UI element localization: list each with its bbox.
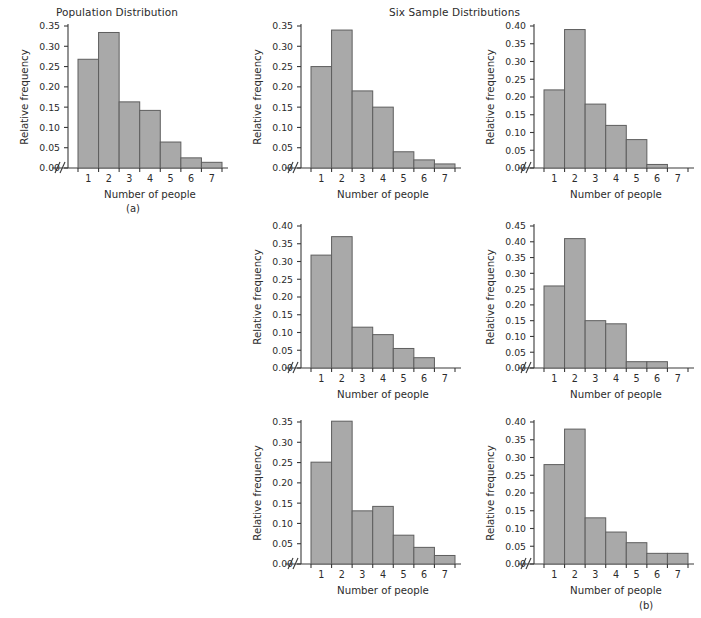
svg-text:0.15: 0.15 bbox=[272, 102, 293, 113]
svg-text:0.05: 0.05 bbox=[272, 142, 293, 153]
bar-3 bbox=[585, 518, 606, 564]
bar-1 bbox=[544, 286, 565, 368]
svg-text:0.35: 0.35 bbox=[505, 252, 526, 263]
svg-text:4: 4 bbox=[380, 173, 386, 184]
svg-text:3: 3 bbox=[359, 569, 365, 580]
chart-sample-1: 0.000.050.100.150.200.250.300.351234567N… bbox=[233, 18, 465, 214]
svg-text:4: 4 bbox=[613, 173, 619, 184]
y-axis-title: Relative frequency bbox=[252, 249, 263, 344]
svg-text:4: 4 bbox=[613, 569, 619, 580]
svg-text:7: 7 bbox=[675, 373, 681, 384]
y-axis-title: Relative frequency bbox=[252, 49, 263, 144]
svg-text:0.10: 0.10 bbox=[272, 122, 293, 133]
svg-text:0.25: 0.25 bbox=[272, 61, 293, 72]
bar-3 bbox=[352, 327, 373, 368]
svg-text:0.00: 0.00 bbox=[505, 558, 526, 569]
svg-text:7: 7 bbox=[442, 569, 448, 580]
bar-1 bbox=[311, 462, 332, 564]
panel-sample-3: 0.000.050.100.150.200.250.300.350.401234… bbox=[233, 218, 465, 414]
bar-1 bbox=[544, 90, 565, 168]
svg-text:0.30: 0.30 bbox=[505, 452, 526, 463]
svg-text:1: 1 bbox=[551, 173, 557, 184]
bar-6 bbox=[647, 164, 668, 168]
svg-text:0.05: 0.05 bbox=[505, 347, 526, 358]
svg-text:0.10: 0.10 bbox=[505, 127, 526, 138]
y-axis-title: Relative frequency bbox=[485, 49, 496, 144]
svg-text:0.25: 0.25 bbox=[505, 74, 526, 85]
bar-2 bbox=[332, 237, 353, 368]
bar-7 bbox=[667, 553, 688, 564]
svg-text:0.15: 0.15 bbox=[505, 505, 526, 516]
bar-4 bbox=[373, 107, 394, 168]
bar-2 bbox=[565, 429, 586, 564]
svg-text:1: 1 bbox=[318, 569, 324, 580]
svg-text:0.40: 0.40 bbox=[505, 416, 526, 427]
svg-text:0.35: 0.35 bbox=[505, 434, 526, 445]
svg-text:6: 6 bbox=[654, 373, 660, 384]
bar-5 bbox=[393, 348, 414, 368]
svg-text:7: 7 bbox=[442, 373, 448, 384]
bar-7 bbox=[434, 555, 455, 564]
svg-text:0.05: 0.05 bbox=[39, 142, 60, 153]
svg-text:0.20: 0.20 bbox=[272, 477, 293, 488]
svg-text:4: 4 bbox=[147, 173, 153, 184]
svg-text:0.00: 0.00 bbox=[272, 362, 293, 373]
bar-6 bbox=[414, 358, 435, 368]
svg-text:7: 7 bbox=[675, 173, 681, 184]
svg-text:0.25: 0.25 bbox=[272, 457, 293, 468]
panel-sample-5: 0.000.050.100.150.200.250.300.351234567N… bbox=[233, 414, 465, 610]
bar-2 bbox=[332, 30, 353, 168]
bar-4 bbox=[606, 324, 627, 368]
bar-3 bbox=[352, 511, 373, 564]
svg-text:0.10: 0.10 bbox=[505, 523, 526, 534]
bar-2 bbox=[565, 30, 586, 168]
svg-text:6: 6 bbox=[654, 173, 660, 184]
svg-text:0.20: 0.20 bbox=[505, 91, 526, 102]
svg-text:0.10: 0.10 bbox=[272, 327, 293, 338]
svg-text:0.15: 0.15 bbox=[272, 498, 293, 509]
svg-text:5: 5 bbox=[634, 373, 640, 384]
svg-text:0.30: 0.30 bbox=[272, 256, 293, 267]
panel-population: 0.000.050.100.150.200.250.300.351234567N… bbox=[0, 18, 232, 214]
svg-text:2: 2 bbox=[572, 569, 578, 580]
chart-sample-6: 0.000.050.100.150.200.250.300.350.401234… bbox=[466, 414, 698, 610]
svg-text:6: 6 bbox=[421, 373, 427, 384]
bar-4 bbox=[606, 125, 627, 168]
svg-text:0.00: 0.00 bbox=[505, 162, 526, 173]
bar-1 bbox=[544, 465, 565, 564]
panel-sample-2: 0.000.050.100.150.200.250.300.350.401234… bbox=[466, 18, 698, 214]
svg-text:7: 7 bbox=[209, 173, 215, 184]
svg-text:3: 3 bbox=[126, 173, 132, 184]
svg-text:5: 5 bbox=[401, 569, 407, 580]
svg-text:0.25: 0.25 bbox=[272, 274, 293, 285]
svg-text:5: 5 bbox=[634, 173, 640, 184]
x-axis-title: Number of people bbox=[337, 389, 429, 400]
bar-6 bbox=[414, 160, 435, 168]
svg-text:7: 7 bbox=[675, 569, 681, 580]
y-axis-title: Relative frequency bbox=[252, 445, 263, 540]
svg-text:2: 2 bbox=[572, 373, 578, 384]
chart-sample-5: 0.000.050.100.150.200.250.300.351234567N… bbox=[233, 414, 465, 610]
svg-text:0.15: 0.15 bbox=[505, 315, 526, 326]
svg-text:0.25: 0.25 bbox=[505, 284, 526, 295]
bar-6 bbox=[647, 362, 668, 368]
bar-3 bbox=[352, 91, 373, 168]
svg-text:0.40: 0.40 bbox=[505, 236, 526, 247]
svg-text:0.40: 0.40 bbox=[505, 20, 526, 31]
svg-text:0.35: 0.35 bbox=[272, 416, 293, 427]
svg-text:0.05: 0.05 bbox=[505, 145, 526, 156]
svg-text:6: 6 bbox=[421, 173, 427, 184]
bar-2 bbox=[99, 32, 120, 168]
bar-4 bbox=[606, 532, 627, 564]
svg-text:0.15: 0.15 bbox=[272, 309, 293, 320]
x-axis-title: Number of people bbox=[104, 189, 196, 200]
svg-text:0.05: 0.05 bbox=[505, 541, 526, 552]
svg-text:0.45: 0.45 bbox=[505, 220, 526, 231]
svg-text:0.00: 0.00 bbox=[505, 362, 526, 373]
svg-text:0.20: 0.20 bbox=[505, 487, 526, 498]
bar-6 bbox=[414, 547, 435, 564]
bar-5 bbox=[393, 535, 414, 564]
svg-text:1: 1 bbox=[551, 373, 557, 384]
svg-text:3: 3 bbox=[592, 373, 598, 384]
bar-7 bbox=[434, 164, 455, 168]
